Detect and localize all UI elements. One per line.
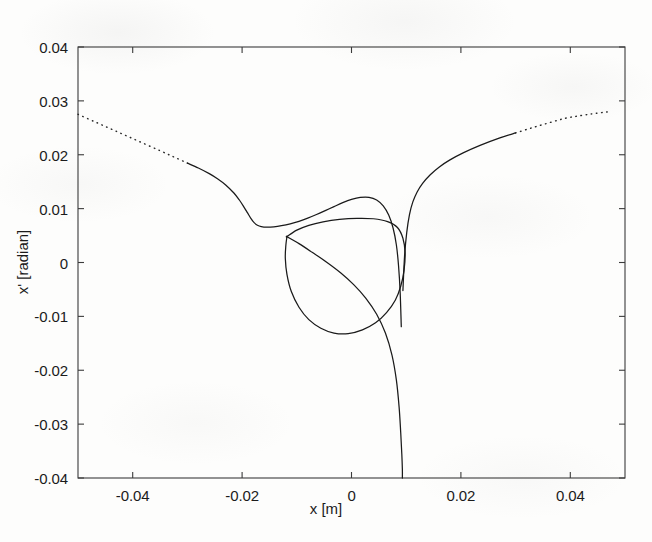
curve-separatrix-lower-descending-branch bbox=[287, 237, 402, 478]
x-tick-label: 0.02 bbox=[446, 487, 475, 504]
curve-separatrix-upper-right-branch-dotted bbox=[516, 112, 610, 133]
axis-frame bbox=[78, 47, 625, 478]
y-tick-label: -0.03 bbox=[0, 416, 68, 433]
x-tick-label: 0.04 bbox=[556, 487, 585, 504]
plot-curves bbox=[78, 112, 610, 478]
y-tick-label: 0.02 bbox=[0, 146, 68, 163]
y-tick-label: 0.03 bbox=[0, 92, 68, 109]
curve-separatrix-upper-left-branch bbox=[78, 114, 187, 163]
phase-space-plot-svg bbox=[0, 0, 652, 542]
y-axis-title: x' [radian] bbox=[14, 230, 31, 295]
y-tick-label: -0.02 bbox=[0, 362, 68, 379]
figure-canvas: 0.040.030.020.010-0.01-0.02-0.03-0.04 -0… bbox=[0, 0, 652, 542]
curve-separatrix-upper-right-branch bbox=[403, 133, 516, 291]
x-tick-label: 0 bbox=[347, 487, 355, 504]
axis-frame-rect bbox=[78, 47, 625, 478]
x-tick-label: -0.02 bbox=[225, 487, 259, 504]
y-tick-label: 0.04 bbox=[0, 39, 68, 56]
axis-ticks bbox=[78, 47, 625, 478]
y-tick-label: -0.01 bbox=[0, 308, 68, 325]
y-tick-label: 0.01 bbox=[0, 200, 68, 217]
y-tick-label: -0.04 bbox=[0, 470, 68, 487]
x-tick-label: -0.04 bbox=[116, 487, 150, 504]
x-axis-title: x [m] bbox=[310, 500, 343, 517]
y-tick-label: 0 bbox=[0, 254, 68, 271]
